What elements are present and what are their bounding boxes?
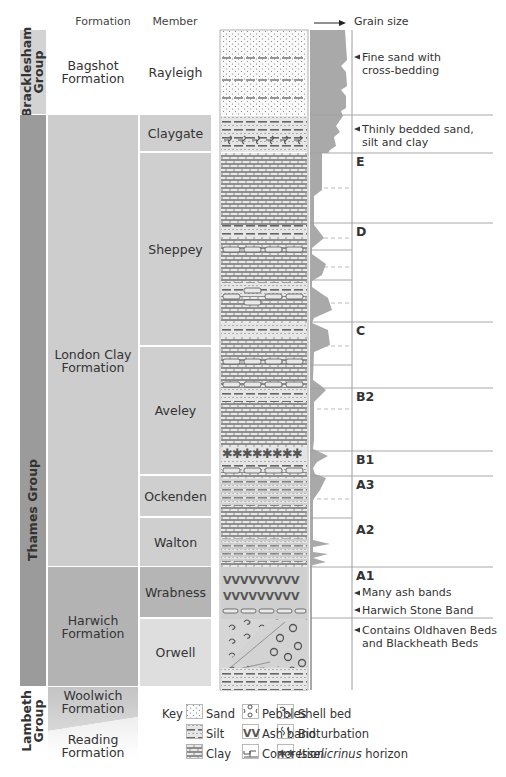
unit-c: C bbox=[356, 323, 365, 338]
clay-pattern-icon bbox=[187, 745, 203, 759]
key-isselicrinus-label: Isselicrinus horizon bbox=[298, 747, 408, 761]
group-label: BrackleshamGroup bbox=[21, 27, 45, 117]
unit-d: D bbox=[356, 224, 366, 239]
unit-b1: B1 bbox=[356, 452, 374, 467]
unit-e: E bbox=[356, 154, 365, 169]
key-silt-label: Silt bbox=[206, 727, 224, 741]
formation-label: Harwich bbox=[61, 614, 124, 627]
note-ash-bands: Many ash bands bbox=[362, 586, 452, 599]
formation-label: Formation bbox=[61, 746, 124, 759]
group-label-line: Group bbox=[33, 27, 45, 117]
svg-text:VVVVVVVVV: VVVVVVVVV bbox=[223, 590, 300, 603]
key-clay-label: Clay bbox=[206, 747, 231, 761]
member-header: Member bbox=[140, 15, 210, 28]
member-walton: Walton bbox=[140, 518, 211, 566]
grain-size-label: Grain size bbox=[354, 15, 409, 28]
formation-harwich: HarwichFormation bbox=[48, 567, 138, 686]
svg-text:VV: VV bbox=[243, 727, 261, 740]
member-claygate: Claygate bbox=[140, 115, 211, 151]
unit-a1: A1 bbox=[356, 568, 374, 583]
member-sheppey: Sheppey bbox=[140, 153, 211, 345]
key-bioturbation-label: Bioturbation bbox=[298, 727, 369, 741]
note-line: Fine sand with bbox=[362, 51, 441, 64]
member-orwell: Orwell bbox=[140, 619, 211, 686]
formation-label: Formation bbox=[61, 702, 124, 715]
key-sand-label: Sand bbox=[206, 707, 235, 721]
group-label-line: Group bbox=[33, 690, 45, 752]
group-bracklesham: BrackleshamGroup bbox=[20, 30, 46, 114]
group-label: Thames Group bbox=[27, 459, 39, 561]
member-ockenden: Ockenden bbox=[140, 476, 211, 516]
group-label: LambethGroup bbox=[21, 690, 45, 752]
note-oldhaven-blackheath: Contains Oldhaven Beds and Blackheath Be… bbox=[362, 624, 497, 650]
formation-bagshot: BagshotFormation bbox=[48, 30, 138, 114]
key-shell-bed-label: Shell bed bbox=[298, 707, 351, 721]
note-line: Contains Oldhaven Beds bbox=[362, 624, 497, 637]
group-lambeth: LambethGroup bbox=[20, 687, 46, 755]
unit-b2: B2 bbox=[356, 389, 374, 404]
formation-woolwich: WoolwichFormation bbox=[48, 688, 138, 716]
unit-a3: A3 bbox=[356, 477, 374, 492]
formation-reading: ReadingFormation bbox=[48, 732, 138, 760]
formation-label: Formation bbox=[61, 72, 124, 85]
svg-text:✱: ✱ bbox=[292, 446, 303, 461]
group-thames: Thames Group bbox=[20, 115, 46, 686]
note-harwich-stone-band: Harwich Stone Band bbox=[362, 604, 474, 617]
formation-header: Formation bbox=[58, 15, 148, 28]
formation-label: Formation bbox=[61, 627, 124, 640]
member-wrabness: Wrabness bbox=[140, 567, 211, 617]
note-line: and Blackheath Beds bbox=[362, 637, 497, 650]
note-line: cross-bedding bbox=[362, 64, 441, 77]
key-horizon-text: horizon bbox=[362, 747, 408, 761]
member-aveley: Aveley bbox=[140, 347, 211, 474]
sand-pattern-icon bbox=[187, 705, 203, 719]
key-isselicrinus-italic: Isselicrinus bbox=[298, 747, 362, 761]
formation-label: London Clay bbox=[54, 348, 131, 361]
silt-pattern-icon bbox=[187, 725, 203, 739]
note-line: Thinly bedded sand, bbox=[362, 123, 474, 136]
formation-london-clay: London ClayFormation bbox=[48, 115, 138, 566]
unit-a2: A2 bbox=[356, 522, 374, 537]
formation-label: Formation bbox=[54, 361, 131, 374]
note-fine-sand: Fine sand with cross-bedding bbox=[362, 51, 441, 77]
svg-text:VVVVVVVVV: VVVVVVVVV bbox=[223, 574, 300, 587]
note-thinly-bedded: Thinly bedded sand, silt and clay bbox=[362, 123, 474, 149]
key-title: Key bbox=[162, 707, 183, 721]
note-line: silt and clay bbox=[362, 136, 474, 149]
lithology-log: ✱✱✱✱✱✱✱✱ VVVVVVVVV VVVVVVVVV bbox=[210, 0, 506, 700]
member-rayleigh: Rayleigh bbox=[140, 30, 211, 114]
